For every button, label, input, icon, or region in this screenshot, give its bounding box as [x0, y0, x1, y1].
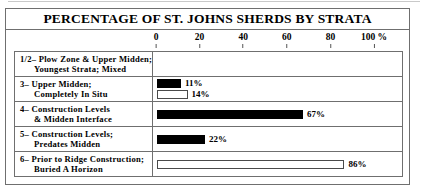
axis-tick-mark — [243, 44, 244, 48]
table-row: 6– Prior to Ridge Construction;Buried A … — [15, 152, 402, 177]
page-title: PERCENTAGE OF ST. JOHNS SHERDS BY STRATA — [43, 11, 371, 27]
axis-tick-label: 20 — [195, 32, 205, 43]
bar-67-percent — [157, 110, 303, 119]
axis-tick-40: 40 — [238, 32, 248, 48]
axis-tick-label: 80 — [326, 32, 336, 43]
strata-label: 5– Construction Levels;Predates Midden — [15, 127, 153, 151]
table-row: 3– Upper Midden;Completely In Situ11%14% — [15, 77, 402, 102]
bar-group: 86% — [157, 160, 366, 169]
axis-tick-mark — [374, 44, 375, 48]
bar-86-percent — [157, 160, 344, 169]
axis-tick-0: 0 — [154, 32, 159, 48]
bar-group: 11% — [157, 79, 202, 88]
strata-label-line2: Buried A Horizon — [20, 164, 149, 174]
axis-tick-label: 40 — [238, 32, 248, 43]
axis-tick-label: 100 % — [361, 32, 387, 43]
axis-tick-20: 20 — [195, 32, 205, 48]
axis-tick-label: 60 — [282, 32, 292, 43]
strata-label-line1: 6– Prior to Ridge Construction; — [20, 154, 149, 164]
strata-label-line1: 4– Construction Levels — [20, 104, 149, 114]
bar-group: 22% — [157, 135, 227, 144]
bar-value-label: 86% — [348, 160, 366, 169]
figure-title-band: PERCENTAGE OF ST. JOHNS SHERDS BY STRATA — [6, 9, 409, 30]
strata-table: 1/2– Plow Zone & Upper Midden;Youngest S… — [14, 51, 403, 177]
strata-label-line2: & Midden Interface — [20, 114, 149, 124]
bar-22-percent — [157, 135, 205, 144]
axis-tick-mark — [286, 44, 287, 48]
strata-label: 1/2– Plow Zone & Upper Midden;Youngest S… — [15, 52, 153, 76]
row-bar-area: 67% — [153, 102, 402, 126]
axis-tick-mark — [199, 44, 200, 48]
strata-label-line2: Completely In Situ — [20, 89, 149, 99]
row-bar-area: 22% — [153, 127, 402, 151]
x-axis: 020406080100 % — [6, 30, 409, 51]
figure-frame: PERCENTAGE OF ST. JOHNS SHERDS BY STRATA… — [5, 8, 410, 185]
strata-label-line2: Youngest Strata; Mixed — [20, 64, 149, 74]
axis-tick-label: 0 — [154, 32, 159, 43]
strata-label-line1: 3– Upper Midden; — [20, 79, 149, 89]
row-bar-area: 11%14% — [153, 77, 402, 101]
axis-tick-80: 80 — [326, 32, 336, 48]
bar-value-label: 67% — [307, 110, 325, 119]
bar-value-label: 22% — [209, 135, 227, 144]
bar-11-percent — [157, 79, 181, 88]
axis-tick-mark — [156, 44, 157, 48]
strata-label: 6– Prior to Ridge Construction;Buried A … — [15, 152, 153, 176]
row-bar-area: 86% — [153, 152, 402, 176]
bar-group: 67% — [157, 110, 325, 119]
table-row: 1/2– Plow Zone & Upper Midden;Youngest S… — [15, 52, 402, 77]
strata-label: 3– Upper Midden;Completely In Situ — [15, 77, 153, 101]
strata-label: 4– Construction Levels& Midden Interface — [15, 102, 153, 126]
row-bar-area — [153, 52, 402, 76]
strata-label-line2: Predates Midden — [20, 139, 149, 149]
axis-tick-100: 100 % — [361, 32, 387, 48]
axis-tick-60: 60 — [282, 32, 292, 48]
strata-label-line1: 1/2– Plow Zone & Upper Midden; — [20, 54, 149, 64]
strata-label-line1: 5– Construction Levels; — [20, 129, 149, 139]
axis-tick-mark — [330, 44, 331, 48]
plot-area: 1/2– Plow Zone & Upper Midden;Youngest S… — [6, 51, 409, 184]
bar-14-percent — [157, 90, 188, 99]
table-row: 4– Construction Levels& Midden Interface… — [15, 102, 402, 127]
bar-value-label: 11% — [185, 79, 203, 88]
bar-value-label: 14% — [192, 90, 210, 99]
bar-group: 14% — [157, 90, 210, 99]
scan-edge-rule — [8, 1, 420, 2]
table-row: 5– Construction Levels;Predates Midden22… — [15, 127, 402, 152]
